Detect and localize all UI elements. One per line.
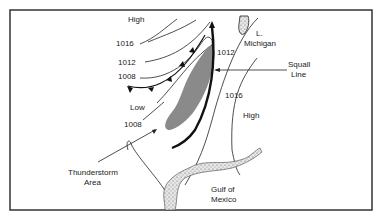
label-1016-e: 1016 [225, 91, 243, 100]
label-1008-w: 1008 [118, 72, 136, 81]
label-thunder-2: Area [84, 178, 101, 187]
label-thunder-1: Thunderstorm [68, 168, 118, 177]
label-1012-e: 1012 [217, 48, 235, 57]
label-squall-1: Squall [288, 60, 310, 69]
label-gulf-2: Mexico [211, 195, 237, 204]
label-1012-w: 1012 [118, 58, 136, 67]
label-lake-1: L. [256, 29, 263, 38]
weather-map: High 1016 1012 1008 Low 1008 L. Michigan… [0, 0, 383, 220]
label-low: Low [130, 103, 145, 112]
label-lake-2: Michigan [244, 39, 276, 48]
label-high-nw: High [128, 15, 144, 24]
label-1016-w: 1016 [116, 39, 134, 48]
label-high-e: High [243, 111, 259, 120]
label-1008-sw: 1008 [124, 120, 142, 129]
label-squall-2: Line [291, 70, 307, 79]
label-gulf-1: Gulf of [211, 185, 235, 194]
